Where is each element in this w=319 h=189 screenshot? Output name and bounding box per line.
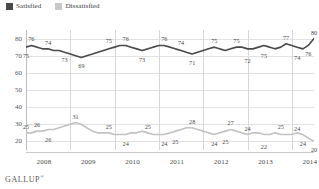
chart-container: Satisfied Dissatisfied 80706050403020 75…: [0, 0, 319, 189]
data-label: 73: [61, 55, 67, 62]
data-label: 75: [211, 37, 217, 44]
data-label: 24: [244, 124, 250, 131]
data-label: 25: [23, 122, 29, 129]
square-swatch-icon: [6, 3, 13, 10]
legend-label-satisfied: Satisfied: [16, 2, 41, 10]
data-label: 25: [106, 122, 112, 129]
data-label: 25: [172, 137, 178, 144]
y-axis-tick: 80: [6, 35, 22, 43]
data-label: 22: [261, 143, 267, 150]
data-label: 24: [123, 139, 129, 146]
data-label: 76: [28, 35, 34, 42]
gallup-wordmark: GALLUP: [5, 175, 40, 184]
y-axis-tick: 50: [6, 86, 22, 94]
line-series-satisfied: [26, 39, 314, 58]
x-axis-tick: 2010: [125, 158, 140, 166]
data-label: 25: [222, 137, 228, 144]
y-axis-tick: 30: [6, 120, 22, 128]
data-label: 25: [145, 122, 151, 129]
data-label: 75: [106, 37, 112, 44]
data-label: 75: [233, 37, 239, 44]
x-axis-tick: 2008: [37, 158, 52, 166]
data-label: 76: [161, 35, 167, 42]
data-label: 25: [278, 122, 284, 129]
data-label: 26: [34, 121, 40, 128]
plot-area: 7576747369757673767471757572757774768025…: [26, 30, 314, 150]
data-label: 24: [294, 124, 300, 131]
data-label: 76: [123, 35, 129, 42]
x-axis-tick: 2011: [170, 158, 185, 166]
x-axis-line: [26, 152, 314, 153]
gallup-logo: GALLUP®: [5, 174, 45, 184]
x-axis-tick: 2012: [214, 158, 229, 166]
y-axis-tick: 60: [6, 69, 22, 77]
data-label: 77: [283, 33, 289, 40]
x-axis-tick: 2014: [302, 158, 317, 166]
data-label: 74: [178, 38, 184, 45]
data-label: 27: [228, 119, 234, 126]
data-label: 28: [189, 117, 195, 124]
data-label: 71: [189, 59, 195, 66]
data-label: 76: [305, 50, 311, 57]
x-axis-tick: 2009: [81, 158, 96, 166]
data-label: 69: [78, 62, 84, 69]
legend-item-satisfied: Satisfied: [6, 2, 41, 10]
y-axis-tick: 40: [6, 103, 22, 111]
data-label: 74: [294, 53, 300, 60]
data-label: 72: [244, 57, 250, 64]
square-swatch-icon: [55, 3, 62, 10]
data-label: 75: [261, 52, 267, 59]
data-label: 26: [45, 136, 51, 143]
registered-mark: ®: [40, 174, 44, 179]
y-axis-tick: 70: [6, 52, 22, 60]
data-label: 74: [45, 38, 51, 45]
data-label: 31: [73, 112, 79, 119]
legend-item-dissatisfied: Dissatisfied: [55, 2, 99, 10]
data-label: 24: [161, 139, 167, 146]
data-label: 80: [311, 28, 317, 35]
x-axis-tick: 2013: [258, 158, 273, 166]
data-label: 75: [23, 52, 29, 59]
data-label: 24: [211, 139, 217, 146]
data-label: 24: [300, 139, 306, 146]
line-series-dissatisfied: [26, 123, 314, 142]
legend-label-dissatisfied: Dissatisfied: [65, 2, 99, 10]
data-label: 73: [139, 55, 145, 62]
series-lines: [26, 30, 314, 150]
chart-legend: Satisfied Dissatisfied: [6, 2, 100, 10]
y-axis-tick: 20: [6, 137, 22, 145]
